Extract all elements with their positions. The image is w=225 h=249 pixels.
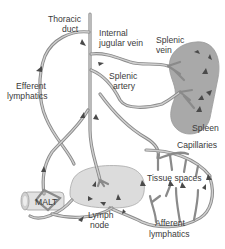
arrow-icon <box>98 62 104 66</box>
label-thoracic-duct: duct <box>62 24 79 34</box>
lymph-node <box>70 166 144 208</box>
arrow-icon <box>80 39 86 46</box>
label-capillaries: Capillaries <box>177 140 217 150</box>
label-afferent-lymphatics: Afferent <box>155 218 186 228</box>
arrow-icon <box>80 112 85 118</box>
label-afferent-lymphatics: lymphatics <box>149 229 190 239</box>
spleen <box>169 42 219 134</box>
label-lymph-node: Lymph <box>88 210 114 220</box>
label-lymph-node: node <box>90 220 109 230</box>
arrow-icon <box>202 184 206 190</box>
label-spleen: Spleen <box>192 123 219 133</box>
label-splenic-vein: vein <box>156 45 172 55</box>
label-splenic-vein: Splenic <box>156 35 185 45</box>
arrow-icon <box>36 66 42 72</box>
label-splenic-artery: artery <box>113 81 136 91</box>
label-splenic-artery: Splenic <box>109 71 138 81</box>
label-efferent-lymphatics: Efferent <box>16 81 47 91</box>
label-thoracic-duct: Thoracic <box>48 14 82 24</box>
label-tissue-spaces: Tissue spaces <box>147 173 202 183</box>
lymphoid-circulation-diagram: Thoracic duct Internal jugular vein Sple… <box>0 0 225 249</box>
label-efferent-lymphatics: lymphatics <box>7 91 48 101</box>
label-malt: MALT <box>35 197 58 207</box>
label-internal-jugular-vein: Internal <box>99 28 128 38</box>
label-internal-jugular-vein: jugular vein <box>98 38 143 48</box>
arrow-icon <box>93 114 99 120</box>
